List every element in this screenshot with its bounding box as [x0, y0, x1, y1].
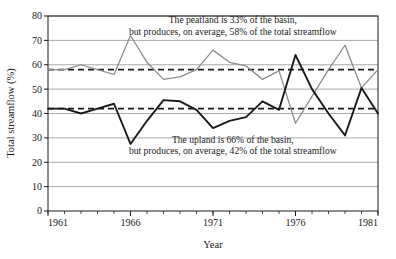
peatland-annotation-line: but produces, on average, 58% of the tot…	[129, 26, 337, 37]
chart-figure: 01020304050607080 19611966197119761981 T…	[0, 0, 396, 259]
x-axis-tick-label: 1961	[48, 217, 68, 228]
y-axis-tick-label: 50	[32, 84, 42, 95]
y-axis-tick-label: 30	[32, 132, 42, 143]
upland-annotation-line: but produces, on average, 42% of the tot…	[129, 145, 337, 156]
x-axis-tick-label: 1981	[358, 217, 378, 228]
peatland-annotation-line: The peatland is 33% of the basin,	[169, 14, 297, 25]
x-axis-tick-label: 1971	[203, 217, 223, 228]
y-axis-tick-label: 40	[32, 108, 42, 119]
y-axis-tick-label: 60	[32, 59, 42, 70]
y-axis-tick-label: 0	[37, 205, 42, 216]
y-axis-tick-label: 10	[32, 181, 42, 192]
y-axis-tick-label: 80	[32, 10, 42, 21]
y-axis-title: Total streamflow (%)	[5, 68, 17, 158]
x-axis-tick-label: 1966	[121, 217, 141, 228]
upland-annotation-line: The upland is 66% of the basin,	[172, 134, 294, 145]
y-axis-tick-label: 20	[32, 157, 42, 168]
streamflow-line-chart: 01020304050607080 19611966197119761981 T…	[0, 0, 396, 259]
x-axis-title: Year	[203, 239, 223, 250]
x-axis-tick-label: 1976	[286, 217, 306, 228]
y-axis-tick-label: 70	[32, 35, 42, 46]
y-axis-tick-labels: 01020304050607080	[32, 10, 42, 216]
